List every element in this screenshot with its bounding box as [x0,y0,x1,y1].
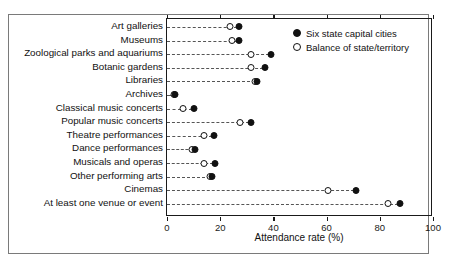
data-point-balance-of-state [237,119,244,126]
x-tick-top [220,15,221,19]
data-point-capital-cities [352,187,359,194]
data-point-capital-cities [171,91,178,98]
data-point-capital-cities [190,105,197,112]
data-point-balance-of-state [324,187,331,194]
legend-item-balance-of-state-territory: Balance of state/territory [293,40,409,54]
data-point-balance-of-state [384,200,391,207]
category-label: Dance performances [72,142,167,153]
data-point-balance-of-state [247,51,254,58]
data-row: Cinemas [167,184,431,197]
category-label: Archives [125,88,167,99]
data-point-capital-cities [235,23,242,30]
data-point-capital-cities [267,51,274,58]
data-row: Archives [167,89,431,102]
x-tick [220,217,221,221]
data-point-capital-cities [235,37,242,44]
legend-item-six-state-capital-cities: Six state capital cities [293,26,409,40]
leader-line [167,81,255,82]
data-point-balance-of-state [179,105,186,112]
x-axis-title: Attendance rate (%) [166,232,432,243]
chart-legend: Six state capital cities Balance of stat… [293,26,409,54]
data-point-balance-of-state [226,23,233,30]
leader-line [167,204,398,205]
data-point-capital-cities [396,200,403,207]
x-tick [167,217,168,221]
data-row: Popular music concerts [167,116,431,129]
data-point-capital-cities [262,64,269,71]
category-label: Art galleries [111,20,167,31]
category-label: Museums [121,34,167,45]
data-point-capital-cities [209,173,216,180]
x-tick [327,217,328,221]
data-point-balance-of-state [201,132,208,139]
leader-line [167,41,237,42]
legend-label: Balance of state/territory [306,42,409,53]
x-tick-top [167,15,168,19]
data-point-capital-cities [211,160,218,167]
data-row: Libraries [167,75,431,88]
leader-line [167,177,210,178]
x-tick-top [273,15,274,19]
x-tick [380,217,381,221]
category-label: Musicals and operas [73,156,167,167]
data-row: Theatre performances [167,130,431,143]
chart-screenshot: Art galleriesMuseumsZoological parks and… [0,0,461,272]
x-tick-top [327,15,328,19]
data-row: Dance performances [167,143,431,156]
open-circle-icon [293,43,301,51]
data-point-capital-cities [210,132,217,139]
category-label: Classical music concerts [56,102,167,113]
data-point-balance-of-state [247,64,254,71]
data-row: Other performing arts [167,171,431,184]
category-label: At least one venue or event [44,197,167,208]
data-row: Classical music concerts [167,103,431,116]
category-label: Theatre performances [67,129,167,140]
data-row: At least one venue or event [167,198,431,211]
data-row: Musicals and operas [167,157,431,170]
category-label: Popular music concerts [61,115,167,126]
data-row: Botanic gardens [167,62,431,75]
x-tick-top [380,15,381,19]
filled-circle-icon [293,29,301,37]
category-label: Botanic gardens [92,61,167,72]
data-point-capital-cities [254,78,261,85]
category-label: Zoological parks and aquariums [24,47,167,58]
data-point-capital-cities [191,146,198,153]
data-point-capital-cities [247,119,254,126]
x-tick-top [433,15,434,19]
category-label: Cinemas [124,183,167,194]
category-label: Libraries [125,74,167,85]
data-point-balance-of-state [201,160,208,167]
legend-label: Six state capital cities [306,28,397,39]
x-tick [433,217,434,221]
category-label: Other performing arts [70,170,167,181]
x-tick [273,217,274,221]
